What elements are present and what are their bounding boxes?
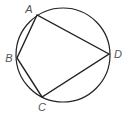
cyclic-quadrilateral-figure: A B C D	[0, 0, 129, 116]
vertex-label-d: D	[114, 48, 122, 60]
vertex-label-a: A	[24, 3, 32, 15]
circumscribed-circle	[16, 8, 110, 102]
vertex-label-b: B	[5, 52, 12, 64]
diagram-canvas: A B C D	[0, 0, 129, 116]
vertex-label-c: C	[38, 101, 46, 113]
quadrilateral-abcd	[17, 15, 109, 97]
